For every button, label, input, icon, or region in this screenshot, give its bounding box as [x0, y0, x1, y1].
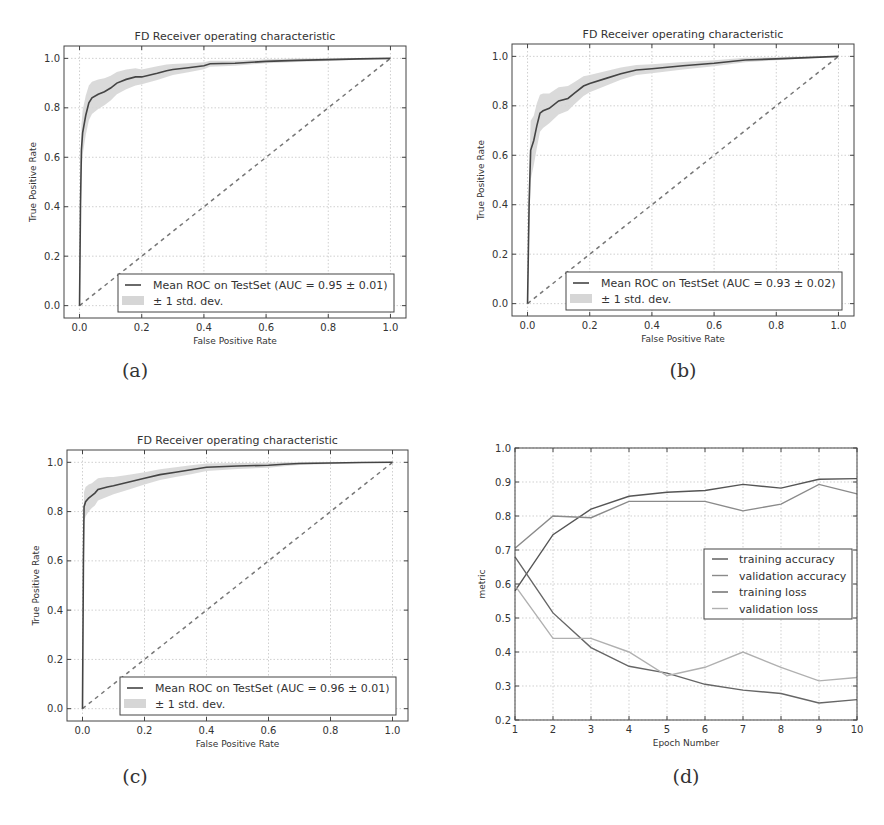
- chart-panel-a: FD Receiver operating characteristic0.00…: [0, 0, 442, 340]
- y-tick-label: 0.9: [495, 477, 511, 488]
- y-tick-label: 1.0: [44, 53, 60, 64]
- x-tick-label: 5: [664, 724, 670, 735]
- y-tick-label: 0.8: [44, 102, 60, 113]
- legend-label-std-dev: ± 1 std. dev.: [601, 293, 671, 306]
- y-tick-label: 0.8: [47, 506, 63, 517]
- legend: Mean ROC on TestSet (AUC = 0.96 ± 0.01)±…: [120, 677, 396, 715]
- y-tick-label: 0.5: [495, 613, 511, 624]
- y-tick-label: 0.8: [492, 100, 508, 111]
- chart-panel-b: FD Receiver operating characteristic0.00…: [442, 0, 884, 340]
- x-axis-label: False Positive Rate: [641, 334, 725, 344]
- x-axis-label: Epoch Number: [653, 738, 720, 748]
- legend-band-swatch: [570, 294, 592, 303]
- legend: training accuracyvalidation accuracytrai…: [704, 549, 852, 619]
- x-tick-label: 1.0: [831, 320, 847, 331]
- legend-label-validation-loss: validation loss: [739, 603, 818, 616]
- y-tick-label: 0.6: [495, 579, 511, 590]
- x-tick-label: 1.0: [383, 322, 399, 333]
- x-tick-label: 0.0: [72, 322, 88, 333]
- x-tick-label: 8: [778, 724, 784, 735]
- x-tick-label: 0.4: [196, 322, 212, 333]
- y-tick-label: 0.0: [47, 703, 63, 714]
- x-tick-label: 9: [816, 724, 822, 735]
- y-tick-label: 0.2: [44, 251, 60, 262]
- y-tick-label: 0.2: [47, 654, 63, 665]
- legend-label-validation-accuracy: validation accuracy: [739, 570, 847, 583]
- y-tick-label: 0.6: [47, 555, 63, 566]
- x-tick-label: 0.6: [706, 320, 722, 331]
- y-tick-label: 0.6: [492, 150, 508, 161]
- x-tick-label: 0.0: [75, 725, 91, 736]
- legend-label-training-accuracy: training accuracy: [739, 553, 835, 566]
- legend-band-swatch: [124, 699, 146, 708]
- y-tick-label: 0.2: [492, 249, 508, 260]
- x-tick-label: 2: [550, 724, 556, 735]
- legend: Mean ROC on TestSet (AUC = 0.95 ± 0.01)±…: [118, 274, 394, 312]
- x-axis-label: False Positive Rate: [196, 739, 280, 749]
- x-tick-label: 0.4: [199, 725, 215, 736]
- roc-chart-c: FD Receiver operating characteristic0.00…: [0, 420, 442, 760]
- y-tick-label: 0.0: [44, 300, 60, 311]
- chart-title: FD Receiver operating characteristic: [137, 434, 338, 447]
- x-tick-label: 0.2: [134, 322, 150, 333]
- x-tick-label: 6: [702, 724, 708, 735]
- y-tick-label: 0.4: [492, 199, 508, 210]
- y-tick-label: 0.4: [44, 201, 60, 212]
- x-tick-label: 0.8: [768, 320, 784, 331]
- caption-a: (a): [105, 359, 165, 381]
- x-tick-label: 1: [512, 724, 518, 735]
- x-tick-label: 0.8: [320, 322, 336, 333]
- y-tick-label: 0.0: [492, 298, 508, 309]
- legend-label-std-dev: ± 1 std. dev.: [155, 698, 225, 711]
- y-tick-label: 0.4: [495, 647, 511, 658]
- roc-chart-a: FD Receiver operating characteristic0.00…: [0, 0, 442, 340]
- x-tick-label: 1.0: [385, 725, 401, 736]
- caption-d: (d): [656, 765, 716, 787]
- chart-panel-c: FD Receiver operating characteristic0.00…: [0, 420, 442, 760]
- chance-diagonal-line: [83, 462, 393, 708]
- x-tick-label: 7: [740, 724, 746, 735]
- y-tick-label: 0.6: [44, 152, 60, 163]
- x-tick-label: 0.0: [520, 320, 536, 331]
- chart-title: FD Receiver operating characteristic: [135, 30, 336, 43]
- y-axis-label: True Positive Rate: [31, 545, 41, 627]
- y-tick-label: 0.2: [495, 715, 511, 726]
- caption-c: (c): [105, 765, 165, 787]
- x-tick-label: 0.4: [644, 320, 660, 331]
- legend-label-mean-roc: Mean ROC on TestSet (AUC = 0.93 ± 0.02): [601, 277, 836, 290]
- training-metrics-chart: 123456789100.20.30.40.50.60.70.80.91.0Ep…: [442, 420, 884, 760]
- y-tick-label: 1.0: [492, 51, 508, 62]
- x-tick-label: 0.2: [582, 320, 598, 331]
- y-tick-label: 0.4: [47, 605, 63, 616]
- legend-label-training-loss: training loss: [739, 586, 807, 599]
- y-axis-label: True Positive Rate: [28, 141, 38, 223]
- x-tick-label: 0.6: [258, 322, 274, 333]
- y-tick-label: 0.3: [495, 681, 511, 692]
- y-axis-label: metric: [477, 569, 487, 598]
- y-tick-label: 1.0: [47, 457, 63, 468]
- legend-label-mean-roc: Mean ROC on TestSet (AUC = 0.96 ± 0.01): [155, 682, 390, 695]
- legend: Mean ROC on TestSet (AUC = 0.93 ± 0.02)±…: [566, 272, 842, 310]
- caption-b: (b): [653, 359, 713, 381]
- roc-chart-b: FD Receiver operating characteristic0.00…: [442, 0, 884, 340]
- legend-band-swatch: [122, 296, 144, 305]
- x-tick-label: 0.6: [261, 725, 277, 736]
- x-tick-label: 0.2: [137, 725, 153, 736]
- chance-diagonal-line: [80, 58, 391, 305]
- x-tick-label: 10: [851, 724, 864, 735]
- x-tick-label: 4: [626, 724, 632, 735]
- chart-title: FD Receiver operating characteristic: [583, 28, 784, 41]
- legend-label-mean-roc: Mean ROC on TestSet (AUC = 0.95 ± 0.01): [153, 279, 388, 292]
- x-axis-label: False Positive Rate: [193, 336, 277, 346]
- chart-panel-d: 123456789100.20.30.40.50.60.70.80.91.0Ep…: [442, 420, 884, 760]
- legend-label-std-dev: ± 1 std. dev.: [153, 295, 223, 308]
- y-axis-label: True Positive Rate: [476, 139, 486, 221]
- x-tick-label: 3: [588, 724, 594, 735]
- y-tick-label: 0.8: [495, 511, 511, 522]
- x-tick-label: 0.8: [323, 725, 339, 736]
- y-tick-label: 1.0: [495, 443, 511, 454]
- y-tick-label: 0.7: [495, 545, 511, 556]
